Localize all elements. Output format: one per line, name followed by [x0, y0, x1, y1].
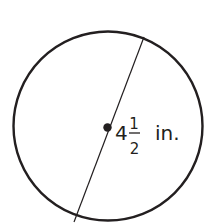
measurement-whole: 4	[115, 121, 128, 145]
center-point	[103, 123, 111, 131]
measurement-unit: in.	[155, 121, 180, 145]
measurement-denominator: 2	[130, 140, 140, 158]
circle-diagram: 4 1 2 in.	[0, 0, 216, 223]
measurement-numerator: 1	[129, 115, 139, 133]
